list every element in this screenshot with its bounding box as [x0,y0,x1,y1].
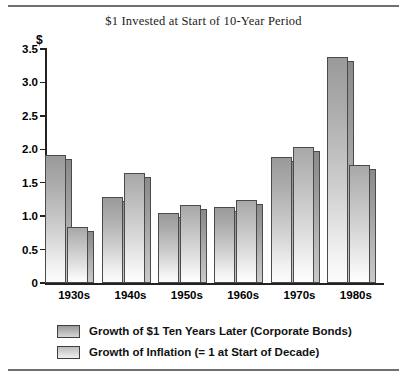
bar-1970s-series2 [293,147,314,283]
chart-figure: $1 Invested at Start of 10-Year Period $… [0,0,407,376]
bar-1980s-series2 [349,165,370,283]
bar-side-face [256,204,263,283]
legend-item-bonds: Growth of $1 Ten Years Later (Corporate … [57,322,352,340]
bar-1980s-series1 [327,57,348,283]
bar-side-face [144,177,151,283]
bar-1970s-series1 [271,157,292,283]
bar-side-face [313,151,320,283]
bar-1960s-series2 [236,200,257,283]
y-axis-tick-label: 3.0 [4,76,38,88]
bar-1950s-series2 [180,205,201,283]
bar-side-face [369,169,376,283]
top-divider [8,5,399,7]
y-axis-tick-label: 1.0 [4,210,38,222]
plot-area [46,49,384,283]
y-axis-tick-label: 0 [4,277,38,289]
y-axis-tick-label: 3.5 [4,43,38,55]
x-axis-label-1940s: 1940s [115,289,147,301]
bar-1940s-series1 [102,197,123,283]
x-axis-label-1970s: 1970s [284,289,316,301]
legend-item-inflation: Growth of Inflation (= 1 at Start of Dec… [57,343,352,361]
bar-1960s-series1 [214,207,235,283]
bottom-divider [8,369,399,371]
y-axis-tick-labels: 00.51.01.52.02.53.03.5 [0,0,38,376]
legend-label-bonds: Growth of $1 Ten Years Later (Corporate … [89,325,352,337]
legend-swatch-inflation-icon [57,346,80,359]
bar-side-face [200,209,207,283]
bar-1950s-series1 [158,213,179,283]
y-axis-tick-label: 2.0 [4,143,38,155]
y-axis-tick-label: 0.5 [4,244,38,256]
chart-title: $1 Invested at Start of 10-Year Period [0,14,407,29]
y-axis-tick-label: 1.5 [4,177,38,189]
bar-1930s-series1 [45,155,66,283]
x-axis-label-1950s: 1950s [171,289,203,301]
legend-swatch-bonds-icon [57,325,80,338]
x-axis-label-1980s: 1980s [340,289,372,301]
x-axis-line [45,283,384,285]
x-axis-label-1930s: 1930s [58,289,90,301]
chart-legend: Growth of $1 Ten Years Later (Corporate … [57,322,352,364]
legend-label-inflation: Growth of Inflation (= 1 at Start of Dec… [89,346,319,358]
x-axis-label-1960s: 1960s [227,289,259,301]
y-axis-tick-label: 2.5 [4,110,38,122]
bar-side-face [87,231,94,283]
bar-1940s-series2 [124,173,145,283]
bar-1930s-series2 [67,227,88,283]
